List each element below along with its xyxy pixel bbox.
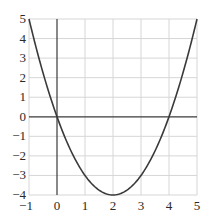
x-tick-label: 0 bbox=[54, 198, 61, 213]
y-tick-label: 5 bbox=[20, 11, 27, 26]
y-tick-label: 1 bbox=[20, 89, 27, 104]
y-tick-label: 0 bbox=[20, 109, 27, 124]
x-tick-label: 3 bbox=[138, 198, 145, 213]
x-tick-label: 4 bbox=[166, 198, 173, 213]
x-tick-label: 1 bbox=[82, 198, 89, 213]
x-tick-label: 5 bbox=[194, 198, 201, 213]
y-tick-label: 2 bbox=[20, 70, 27, 85]
y-tick-label: −2 bbox=[12, 148, 26, 163]
y-tick-label: 4 bbox=[20, 31, 27, 46]
y-tick-label: −1 bbox=[12, 128, 26, 143]
y-tick-labels: 543210−1−2−3−4 bbox=[12, 11, 26, 202]
x-tick-label: 2 bbox=[110, 198, 117, 213]
y-tick-label: 3 bbox=[20, 50, 27, 65]
y-tick-label: −4 bbox=[12, 187, 26, 202]
x-tick-labels: −1012345 bbox=[19, 198, 200, 213]
y-tick-label: −3 bbox=[12, 167, 26, 182]
parabola-chart: −1012345 543210−1−2−3−4 bbox=[0, 0, 212, 219]
